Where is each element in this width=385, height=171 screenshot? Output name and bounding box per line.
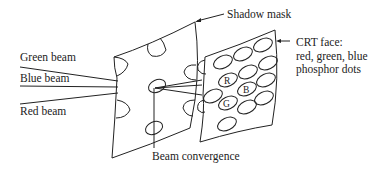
crt-face-label-line2: red, green, blue (296, 50, 368, 62)
crt-face-label-line1: CRT face: (296, 36, 343, 48)
blue-beam-label: Blue beam (20, 72, 70, 84)
beam-convergence-label: Beam convergence (152, 150, 240, 162)
shadow-mask-pointer (197, 14, 224, 21)
phosphor-dot (254, 70, 277, 89)
phosphor-dot (235, 97, 258, 116)
red-beam-label: Red beam (20, 105, 66, 117)
red-beam-line (20, 93, 118, 104)
shadow-mask-notch (184, 65, 196, 80)
arrow-head-icon (195, 18, 201, 22)
shadow-mask-plate (112, 22, 198, 158)
crt-diagram: R B G Green beam Blue beam Red beam Shad… (0, 0, 385, 171)
phosphor-dot (256, 53, 279, 72)
phosphor-dot (215, 114, 238, 133)
phosphor-label-blue: B (243, 85, 249, 95)
diagram-drawing: R B G (0, 0, 385, 171)
blue-beam-line (20, 86, 118, 87)
crt-face-label-line3: phosphor dots (296, 63, 361, 75)
arrow-head-icon (276, 39, 281, 43)
shadow-mask-label: Shadow mask (227, 8, 291, 20)
green-beam-label: Green beam (20, 51, 76, 63)
phosphor-dot (231, 44, 254, 63)
phosphor-dot (236, 62, 259, 81)
phosphor-label-green: G (223, 99, 230, 109)
shadow-mask-notch (116, 100, 130, 118)
phosphor-dot (211, 52, 234, 71)
phosphor-dot (252, 88, 275, 107)
crt-face-plate (200, 30, 277, 142)
phosphor-dot (201, 86, 224, 105)
phosphor-label-red: R (224, 76, 231, 86)
converging-ray (155, 88, 202, 95)
